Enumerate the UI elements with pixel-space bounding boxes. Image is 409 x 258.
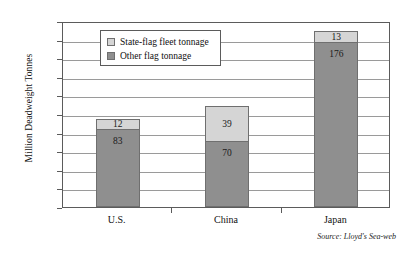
y-axis-title: Million Deadweight Tonnes [24, 28, 34, 188]
chart-figure: Million Deadweight Tonnes 20018016014012… [0, 0, 409, 258]
bar-stack[interactable]: 1283 [96, 119, 140, 207]
legend-swatch-light-gray-icon [107, 38, 115, 46]
chart-legend: State-flag fleet tonnage Other flag tonn… [100, 30, 221, 66]
bar-stack[interactable]: 13176 [314, 31, 358, 207]
legend-swatch-dark-gray-icon [107, 52, 115, 60]
x-axis-tick-label: China [186, 214, 266, 225]
legend-item-state-flag: State-flag fleet tonnage [107, 35, 220, 49]
x-axis-tick-mark [281, 208, 282, 213]
bar-value-label: 83 [97, 136, 139, 146]
legend-label-other-flag: Other flag tonnage [120, 51, 191, 61]
x-axis-tick-mark [171, 208, 172, 213]
legend-label-state-flag: State-flag fleet tonnage [120, 37, 209, 47]
bar-value-label: 176 [315, 49, 357, 59]
x-axis-tick-label: U.S. [77, 214, 157, 225]
bar-segment-other-flag[interactable]: 176 [314, 43, 358, 207]
x-axis-tick-label: Japan [295, 214, 375, 225]
y-axis-tick-mark [57, 208, 62, 209]
bar-segment-state-flag[interactable]: 12 [96, 119, 140, 130]
bar-value-label: 70 [206, 148, 248, 158]
legend-item-other-flag: Other flag tonnage [107, 49, 220, 63]
bar-value-label: 39 [222, 119, 232, 129]
source-note: Source: Lloyd's Sea-web [0, 232, 396, 241]
bar-stack[interactable]: 3970 [205, 106, 249, 207]
bar-segment-state-flag[interactable]: 13 [314, 31, 358, 43]
bar-value-label: 13 [332, 32, 342, 42]
bar-segment-other-flag[interactable]: 70 [205, 142, 249, 207]
bar-segment-state-flag[interactable]: 39 [205, 106, 249, 142]
bar-segment-other-flag[interactable]: 83 [96, 130, 140, 207]
bar-value-label: 12 [113, 119, 123, 129]
